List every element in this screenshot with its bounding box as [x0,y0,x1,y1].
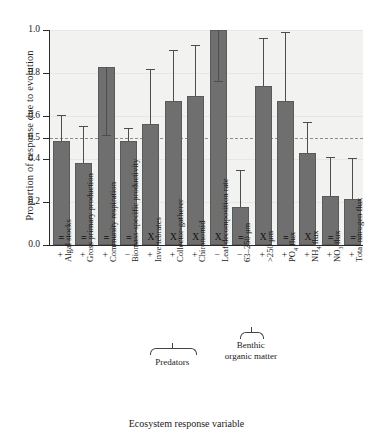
error-bar [240,170,241,208]
chart-figure: Proportion of response due to evolution … [0,0,373,441]
bar-group[interactable]: X [187,30,204,245]
error-bar [218,30,219,81]
error-bar-cap [124,128,133,129]
error-bar-cap [214,81,223,82]
error-bar-cap [303,122,312,123]
bar-group[interactable]: = [232,30,249,245]
error-bar-cap [281,32,290,33]
error-bar-cap [102,135,111,136]
x-axis-tick-label: Total nitrogen flux [355,198,364,262]
bar-group[interactable]: = [53,30,70,245]
error-bar-cap [259,38,268,39]
y-axis-tick-label: 0.4 [6,154,40,164]
error-bar-cap [57,115,66,116]
error-bar-cap [326,157,335,158]
error-bar [150,69,151,124]
error-bar [83,126,84,164]
error-bar-cap [146,69,155,70]
group-label: Predators [120,357,225,368]
error-bar [195,45,196,96]
y-axis-tick-label: 0.2 [6,197,40,207]
error-bar-cap [191,45,200,46]
bar-group[interactable]: = [277,30,294,245]
brace-line [240,332,264,339]
y-axis-tick [43,30,50,31]
error-bar [61,115,62,141]
error-bar-cap [348,158,357,159]
brace-line [150,348,197,355]
bar-group[interactable]: = [322,30,339,245]
x-axis-tick-label: Gross primary production [86,173,95,262]
brace-stem [251,327,252,332]
y-axis-tick [43,245,50,246]
error-bar-cap [236,170,245,171]
error-bar [128,128,129,141]
y-axis-tick-label: 0.5 [6,133,40,143]
brace-stem [172,343,173,348]
y-axis-tick [43,202,50,203]
error-bar [285,32,286,101]
error-bar [263,38,264,86]
bar-group[interactable]: X [299,30,316,245]
error-bar [173,50,174,101]
error-bar-cap [169,50,178,51]
y-axis-tick-label: 0.6 [6,111,40,121]
plot-area: ====XXXX=X=X== [49,30,363,245]
bar[interactable] [277,101,294,245]
y-axis-tick-label: 1.0 [6,25,40,35]
error-bar [352,158,353,199]
group-label: Benthic organic matter [224,340,278,361]
y-axis-tick-label: 0.8 [6,68,40,78]
y-axis-tick [43,73,50,74]
error-bar [106,67,107,135]
x-axis-title: Ecosystem response variable [0,418,373,429]
bar-group[interactable]: X [255,30,272,245]
y-axis-tick [43,116,50,117]
bar-group[interactable]: X [142,30,159,245]
error-bar-cap [79,126,88,127]
error-bar [330,157,331,196]
y-axis-tick [43,159,50,160]
y-axis-tick-label: 0.0 [6,240,40,250]
error-bar [307,122,308,152]
bar[interactable] [255,86,272,245]
y-axis-tick [43,138,50,139]
x-axis-tick-label: Biomass-specific productivity [131,159,140,262]
